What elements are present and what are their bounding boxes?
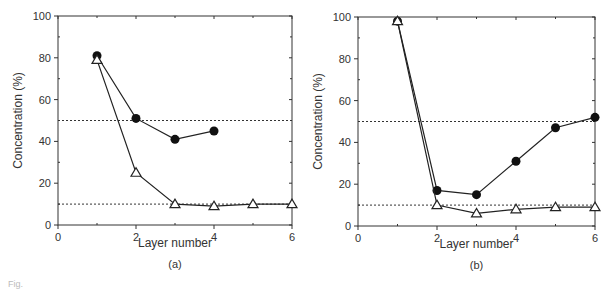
circle-marker	[551, 123, 560, 132]
triangle-marker	[432, 200, 442, 209]
y-tick-label: 20	[339, 178, 351, 190]
y-tick-label: 100	[333, 11, 351, 23]
triangle-marker	[131, 168, 141, 177]
circle-marker	[472, 190, 481, 199]
series-line-open-triangles	[398, 21, 596, 213]
y-tick-label: 100	[33, 10, 51, 22]
triangle-marker	[170, 199, 180, 208]
y-tick-label: 20	[39, 177, 51, 189]
y-tick-label: 80	[39, 52, 51, 64]
circle-marker	[512, 157, 521, 166]
triangle-marker	[590, 202, 600, 211]
x-tick-label: 0	[55, 231, 61, 243]
y-tick-label: 0	[345, 220, 351, 232]
chart-panel-a: 0204060801000246Concentration (%)Layer n…	[11, 10, 297, 270]
panel-label: (b)	[470, 259, 483, 271]
series-line-open-triangles	[97, 60, 292, 206]
y-axis-label: Concentration (%)	[311, 73, 325, 170]
x-axis-label: Layer number	[439, 237, 513, 251]
panel-label: (a)	[168, 258, 181, 270]
y-tick-label: 60	[339, 95, 351, 107]
x-tick-label: 6	[592, 232, 598, 244]
triangle-marker	[248, 199, 258, 208]
circle-marker	[132, 114, 141, 123]
y-tick-label: 80	[339, 53, 351, 65]
circle-marker	[171, 135, 180, 144]
y-tick-label: 60	[39, 94, 51, 106]
series-line-filled-circles	[398, 21, 596, 194]
x-tick-label: 6	[289, 231, 295, 243]
series-line-filled-circles	[97, 56, 214, 140]
x-tick-label: 4	[513, 232, 519, 244]
x-axis-label: Layer number	[138, 236, 212, 250]
y-tick-label: 40	[39, 135, 51, 147]
chart-panel-b: 0204060801000246Concentration (%)Layer n…	[311, 11, 600, 271]
circle-marker	[591, 113, 600, 122]
triangle-marker	[287, 199, 297, 208]
y-axis-label: Concentration (%)	[11, 72, 25, 169]
circle-marker	[210, 126, 219, 135]
y-tick-label: 40	[339, 136, 351, 148]
figure-caption: Fig.	[8, 279, 23, 289]
y-tick-label: 0	[45, 219, 51, 231]
triangle-marker	[551, 202, 561, 211]
x-tick-label: 0	[355, 232, 361, 244]
